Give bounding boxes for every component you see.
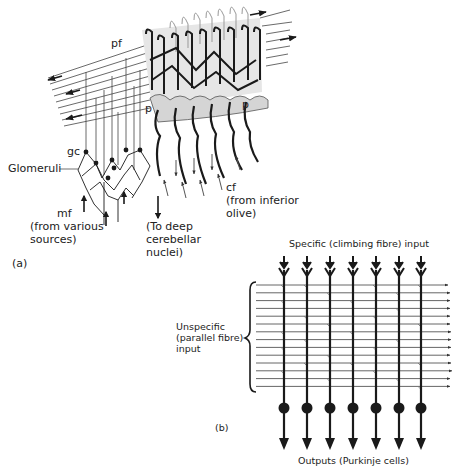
- granule-axons: [86, 58, 140, 175]
- label-unspecific-1: Unspecific: [176, 321, 225, 332]
- label-pf: pf: [111, 38, 122, 50]
- label-mf-source-1: (from various: [30, 221, 104, 233]
- label-p-left: p: [145, 103, 152, 115]
- label-deep-2: cerebellar: [146, 234, 201, 246]
- label-mf: mf: [57, 208, 72, 220]
- label-cf-source-1: (from inferior: [226, 195, 299, 207]
- label-unspecific-2: (parallel fibre): [176, 332, 243, 343]
- parallel-fibre-brace: [245, 282, 256, 392]
- label-gc: gc: [67, 146, 80, 158]
- purkinje-dendrites: [142, 7, 268, 122]
- label-specific-input: Specific (climbing fibre) input: [289, 238, 429, 249]
- label-deep-1: (To deep: [146, 221, 193, 233]
- label-glomeruli: Glomeruli: [8, 163, 61, 175]
- label-p-right: p: [242, 99, 249, 111]
- panel-a-label: (a): [12, 258, 27, 270]
- label-deep-3: nuclei): [146, 247, 183, 259]
- purkinje-cell-bodies: [279, 403, 427, 414]
- label-outputs: Outputs (Purkinje cells): [298, 455, 409, 466]
- label-unspecific-3: input: [176, 343, 200, 354]
- panel-b-label: (b): [215, 422, 228, 433]
- label-cf-source-2: olive): [226, 208, 256, 220]
- output-arrowheads: [279, 438, 426, 450]
- panel-b-drawing: [245, 256, 452, 450]
- label-mf-source-2: sources): [30, 234, 77, 246]
- label-cf: cf: [226, 182, 236, 194]
